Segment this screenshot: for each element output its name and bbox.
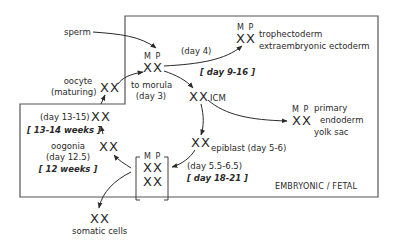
zygote-note-line2: (day 3): [131, 91, 171, 101]
bracket-left: [136, 157, 140, 200]
arrow-oocyte-early-to-oocyte: [101, 95, 105, 104]
oogonia-label: oogonia: [48, 141, 88, 151]
arrow-icm-to-epiblast: [201, 104, 203, 135]
oocyte-chromosomes: XX: [100, 81, 120, 94]
sperm-label: sperm: [64, 27, 91, 37]
oogonia-chromosomes: XX: [99, 140, 119, 153]
somatic-chromosomes: XX: [90, 212, 110, 225]
zygote-chromosomes: XX: [143, 61, 163, 74]
oocyte-early-human-timing: [ 13-14 weeks ]: [27, 125, 101, 135]
arrow-icm-to-endoderm: [208, 100, 287, 121]
epiblast-label: epiblast (day 5-6): [211, 143, 286, 153]
trophectoderm-label-line2: extraembryonic ectoderm: [259, 41, 370, 51]
arrow-oogonia-to-oocyte-early: [101, 126, 103, 134]
randomx-edge-label: (day 5.5-6.5): [187, 161, 242, 171]
icm-label: ICM: [210, 93, 226, 103]
bracket-right: [164, 157, 168, 200]
oocyte-label-line1: oocyte: [58, 76, 98, 86]
arrow-randomx-to-oogonia: [114, 155, 131, 168]
randomx-chromosomes-line1: XX: [143, 161, 163, 174]
oocyte-early-chromosomes: XX: [91, 110, 111, 123]
oogonia-timing: (day 12.5): [43, 152, 93, 162]
randomx-human-timing: [ day 18-21 ]: [187, 173, 248, 183]
icm-chromosomes: XX: [189, 90, 209, 103]
trophectoderm-chromosomes: XX: [236, 32, 256, 45]
zygote-note-line1: to morula: [131, 80, 171, 90]
endoderm-label-line1: primary: [314, 103, 347, 113]
endoderm-label-line3: yolk sac: [314, 127, 349, 137]
randomx-chromosomes-line2: XX: [143, 175, 163, 188]
epiblast-chromosomes: XX: [191, 136, 211, 149]
oogonia-human-timing: [ 12 weeks ]: [38, 164, 98, 174]
trophectoderm-label-line1: trophectoderm: [259, 29, 322, 39]
trophectoderm-edge-label: (day 4): [181, 46, 211, 56]
arrow-randomx-to-somatic: [99, 172, 131, 208]
region-label: EMBRYONIC / FETAL: [275, 182, 357, 192]
oocyte-early-timing: (day 13-15): [40, 112, 90, 122]
oocyte-label-line2: (maturing): [51, 87, 96, 97]
endoderm-label-line2: endoderm: [320, 115, 363, 125]
somatic-label: somatic cells: [72, 226, 127, 236]
trophectoderm-human-timing: [ day 9-16 ]: [200, 67, 255, 77]
endoderm-chromosomes: XX: [292, 114, 312, 127]
